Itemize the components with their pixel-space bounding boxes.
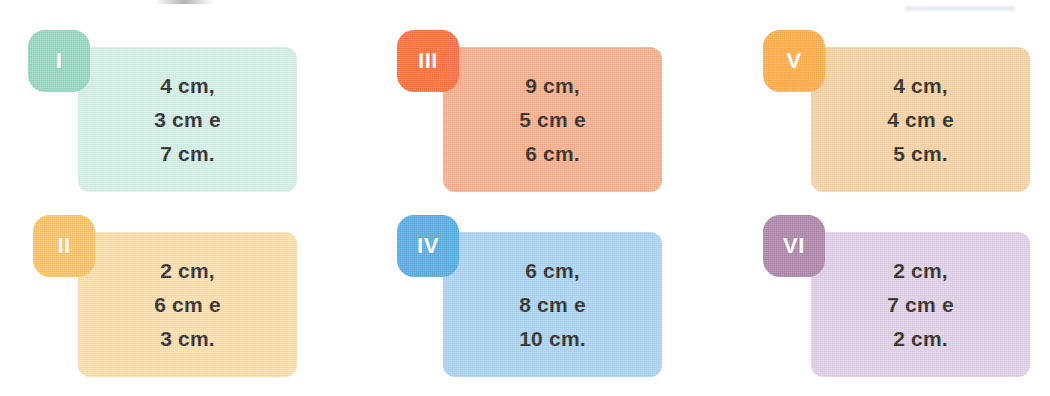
card-measurement-line: 2 cm, bbox=[160, 254, 215, 288]
card-number-label: IV bbox=[417, 233, 439, 259]
card-number-tag: II bbox=[33, 215, 95, 277]
card-measurement-line: 6 cm. bbox=[525, 137, 580, 171]
cards-board: 4 cm,3 cm e7 cm.I2 cm,6 cm e3 cm.II9 cm,… bbox=[0, 0, 1050, 396]
clipped-text-remnant bbox=[155, 0, 215, 4]
card-measurement-line: 4 cm e bbox=[887, 103, 954, 137]
card-measurement-line: 3 cm. bbox=[160, 322, 215, 356]
card-number-label: II bbox=[57, 233, 70, 259]
card-measurement-line: 7 cm e bbox=[887, 288, 954, 322]
card-body: 2 cm,7 cm e2 cm. bbox=[811, 232, 1030, 377]
card-number-label: III bbox=[418, 48, 438, 74]
card-number-tag: V bbox=[763, 30, 825, 92]
card-measurement-line: 7 cm. bbox=[160, 137, 215, 171]
clipped-text-remnant-right bbox=[905, 6, 1015, 11]
card-body: 6 cm,8 cm e10 cm. bbox=[443, 232, 662, 377]
card-measurement-line: 5 cm e bbox=[519, 103, 586, 137]
card-measurement-line: 4 cm, bbox=[160, 69, 215, 103]
card-number-label: V bbox=[786, 48, 801, 74]
card-body: 4 cm,4 cm e5 cm. bbox=[811, 47, 1030, 192]
card-measurement-line: 3 cm e bbox=[154, 103, 221, 137]
card-number-tag: I bbox=[28, 30, 90, 92]
card-body: 4 cm,3 cm e7 cm. bbox=[78, 47, 297, 192]
card-measurement-line: 6 cm e bbox=[154, 288, 221, 322]
card-measurement-line: 6 cm, bbox=[525, 254, 580, 288]
card-measurement-line: 5 cm. bbox=[893, 137, 948, 171]
card-number-tag: VI bbox=[763, 215, 825, 277]
card-measurement-line: 9 cm, bbox=[525, 69, 580, 103]
card-measurement-line: 8 cm e bbox=[519, 288, 586, 322]
card-body: 9 cm,5 cm e6 cm. bbox=[443, 47, 662, 192]
card-body: 2 cm,6 cm e3 cm. bbox=[78, 232, 297, 377]
card-number-tag: III bbox=[397, 30, 459, 92]
card-number-label: I bbox=[56, 48, 63, 74]
card-number-label: VI bbox=[783, 233, 805, 259]
card-number-tag: IV bbox=[397, 215, 459, 277]
card-measurement-line: 10 cm. bbox=[519, 322, 586, 356]
card-measurement-line: 2 cm. bbox=[893, 322, 948, 356]
card-measurement-line: 2 cm, bbox=[893, 254, 948, 288]
card-measurement-line: 4 cm, bbox=[893, 69, 948, 103]
